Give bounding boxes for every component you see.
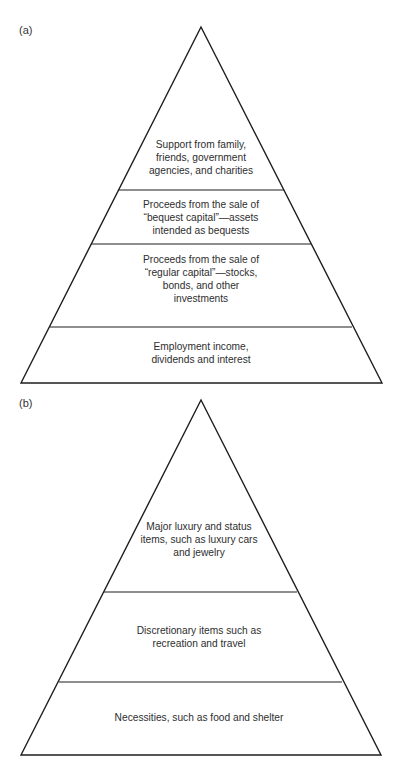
pyramid-a-tier-2-text: Proceeds from the sale of “bequest capit… [143,198,259,237]
text-line: Proceeds from the sale of [143,198,259,211]
pyramid-a-tier-4-text: Employment income, dividends and interes… [151,340,250,366]
text-line: Major luxury and status [140,520,257,533]
text-line: and jewelry [140,546,257,559]
pyramid-b-tier-1-text: Major luxury and status items, such as l… [140,520,257,559]
text-line: items, such as luxury cars [140,533,257,546]
text-line: Necessities, such as food and shelter [115,711,284,724]
text-line: “regular capital”—stocks, [143,266,259,279]
text-line: friends, government [149,151,253,164]
text-line: bonds, and other [143,279,259,292]
pyramid-b [21,400,381,755]
panel-label-a: (a) [19,24,32,36]
text-line: Employment income, [151,340,250,353]
text-line: Proceeds from the sale of [143,253,259,266]
text-line: “bequest capital”—assets [143,211,259,224]
pyramid-a-tier-1-text: Support from family, friends, government… [149,138,253,177]
text-line: Discretionary items such as [137,624,262,637]
pyramid-b-tier-3-text: Necessities, such as food and shelter [115,711,284,724]
pyramid-b-outline [21,400,381,755]
pyramid-a-tier-3-text: Proceeds from the sale of “regular capit… [143,253,259,305]
text-line: investments [143,292,259,305]
text-line: agencies, and charities [149,164,253,177]
text-line: dividends and interest [151,353,250,366]
pyramid-b-tier-2-text: Discretionary items such as recreation a… [137,624,262,650]
text-line: Support from family, [149,138,253,151]
panel-label-b: (b) [19,397,32,409]
text-line: intended as bequests [143,224,259,237]
pyramid-diagrams [0,0,395,772]
text-line: recreation and travel [137,637,262,650]
